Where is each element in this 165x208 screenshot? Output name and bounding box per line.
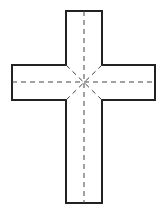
cross-diagram <box>0 0 165 208</box>
